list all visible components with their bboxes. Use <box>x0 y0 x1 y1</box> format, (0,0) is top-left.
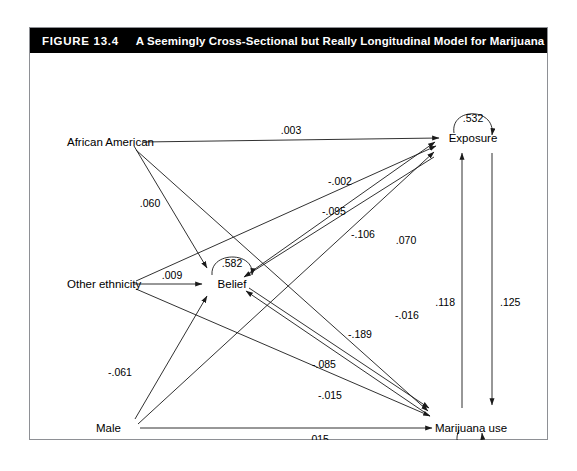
coefficient-exposure-to-belief: -.016 <box>395 309 419 321</box>
path-african-american-to-exposure <box>142 138 439 142</box>
coefficient-african-american-to-marijuana-use: -.015 <box>318 389 342 401</box>
path-male-to-exposure <box>138 152 434 424</box>
figure-frame: FIGURE 13.4 A Seemingly Cross-Sectional … <box>29 27 548 440</box>
figure-number: FIGURE 13.4 <box>42 35 119 47</box>
node-label-african-american: African American <box>67 136 154 148</box>
coefficient-male-to-belief: -.061 <box>108 366 132 378</box>
node-label-belief: Belief <box>218 278 248 290</box>
coefficient-male-to-exposure: .070 <box>396 234 417 246</box>
path-other-ethnicity-to-marijuana-use <box>136 289 430 416</box>
path-diagram-svg: African American Other ethnicity Male Be… <box>30 53 549 440</box>
coefficient-exposure-to-marijuana-use: .125 <box>500 296 521 308</box>
disturbance-value-belief: .582 <box>222 257 243 269</box>
node-label-marijuana-use: Marijuana use <box>435 422 507 434</box>
coefficient-other-ethnicity-to-exposure: -.002 <box>328 175 352 187</box>
coefficient-other-ethnicity-to-marijuana-use: -.085 <box>312 358 336 370</box>
coefficient-marijuana-use-to-belief: -.189 <box>348 328 372 340</box>
path-other-ethnicity-to-exposure <box>136 146 436 281</box>
coefficient-belief-to-marijuana-use: -.106 <box>351 228 375 240</box>
coefficient-african-american-to-exposure: .003 <box>281 124 302 136</box>
figure-root: FIGURE 13.4 A Seemingly Cross-Sectional … <box>0 0 577 471</box>
coefficient-african-american-to-belief: .060 <box>140 197 161 209</box>
coefficient-male-to-marijuana-use: -.015 <box>305 433 329 440</box>
path-male-to-belief <box>135 296 207 419</box>
node-label-exposure: Exposure <box>449 132 498 144</box>
path-diagram-canvas: African American Other ethnicity Male Be… <box>30 53 549 440</box>
disturbance-value-exposure: .532 <box>463 112 484 124</box>
figure-caption: A Seemingly Cross-Sectional but Really L… <box>136 35 547 47</box>
coefficient-marijuana-use-to-exposure: .118 <box>435 296 455 308</box>
coefficient-belief-to-exposure: -.095 <box>322 205 346 217</box>
node-label-male: Male <box>96 422 121 434</box>
figure-titlebar: FIGURE 13.4 A Seemingly Cross-Sectional … <box>30 28 547 53</box>
coefficient-other-ethnicity-to-belief: .009 <box>162 269 183 281</box>
node-label-other-ethnicity: Other ethnicity <box>67 278 141 290</box>
